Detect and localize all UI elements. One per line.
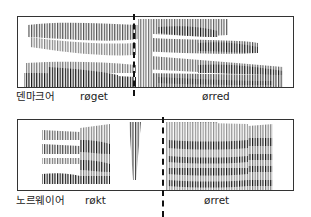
spectrogram-norwegian-image <box>18 120 294 191</box>
segment-divider-norwegian <box>162 117 164 217</box>
segment-divider-danish <box>133 14 135 96</box>
word-label-rokt: røkt <box>85 194 106 206</box>
word-label-orred: ørred <box>202 90 230 102</box>
spectrogram-danish-image <box>18 17 294 88</box>
spectrogram-norwegian <box>17 119 294 191</box>
language-label-norwegian: 노르웨이어 <box>16 194 65 206</box>
word-label-orret: ørret <box>204 194 229 206</box>
language-label-danish: 덴마크어 <box>16 90 55 102</box>
spectrogram-danish <box>17 16 294 88</box>
word-label-roget: røget <box>80 90 108 102</box>
